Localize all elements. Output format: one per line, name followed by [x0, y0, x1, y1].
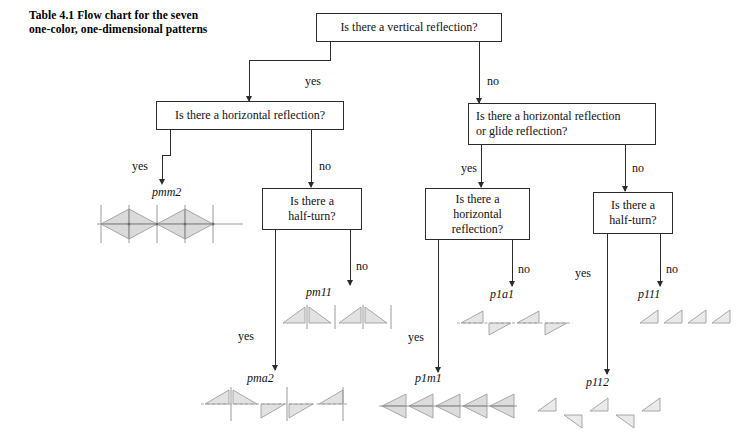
- pattern-figure-p112: [536, 393, 668, 433]
- edge-label-halfturn-right-yes: yes: [575, 266, 591, 281]
- edge-label-left-no: no: [319, 159, 331, 174]
- question-text-line1: Is there a: [290, 194, 334, 208]
- edge-label-halfturn-right-no: no: [666, 262, 678, 277]
- pattern-label-p112: p112: [586, 375, 609, 390]
- table-caption-line1: Table 4.1 Flow chart for the seven: [29, 8, 198, 22]
- pattern-label-pmm2: pmm2: [152, 185, 181, 200]
- table-caption-line2: one-color, one-dimensional patterns: [29, 22, 207, 36]
- question-box-right-half-turn[interactable]: Is there a half-turn?: [593, 192, 673, 234]
- edge-label-root-yes: yes: [305, 74, 321, 89]
- question-text: Is there a vertical reflection?: [340, 20, 477, 35]
- question-text-line2: half-turn?: [609, 213, 656, 227]
- question-text-wrapper: Is there a half-turn?: [288, 194, 335, 224]
- pattern-label-p111: p111: [638, 287, 660, 302]
- edge-left-yes-jog: [162, 155, 171, 156]
- edge-label-right-no: no: [632, 161, 644, 176]
- question-text-wrapper: Is there a horizontal reflection?: [452, 192, 503, 237]
- edge-halfturn-right-no: [660, 234, 661, 286]
- arrowhead-halfturn-left-no: [347, 280, 353, 286]
- question-text-line1: Is there a: [456, 192, 500, 206]
- edge-label-root-no: no: [487, 74, 499, 89]
- edge-halfturn-left-no: [350, 230, 351, 285]
- question-text-line1: Is there a: [611, 198, 655, 212]
- flow-chart-figure: Table 4.1 Flow chart for the seven one-c…: [0, 0, 742, 446]
- question-text-line2: or glide reflection?: [476, 124, 567, 138]
- edge-label-right-yes: yes: [461, 161, 477, 176]
- edge-halfturn-right-yes: [607, 234, 608, 374]
- question-text-line1: Is there a horizontal reflection: [476, 109, 621, 123]
- question-text-line3: reflection?: [452, 222, 503, 236]
- question-text-line2: half-turn?: [288, 209, 335, 223]
- pattern-label-pma2: pma2: [247, 371, 274, 386]
- question-text: Is there a horizontal reflection?: [175, 108, 325, 123]
- edge-midhoriz-yes: [438, 240, 439, 372]
- edge-left-yes-stub: [170, 130, 171, 155]
- question-text-wrapper: Is there a half-turn?: [609, 198, 656, 228]
- pattern-label-p1m1: p1m1: [415, 371, 442, 386]
- edge-right-no: [625, 145, 626, 191]
- question-box-left-half-turn[interactable]: Is there a half-turn?: [262, 188, 362, 230]
- edge-label-midhoriz-no: no: [518, 262, 530, 277]
- edge-root-yes-horizontal: [249, 60, 331, 61]
- question-box-right-horizontal-or-glide[interactable]: Is there a horizontal reflection or glid…: [468, 103, 656, 145]
- edge-label-halfturn-left-yes: yes: [238, 329, 254, 344]
- pattern-label-p1a1: p1a1: [490, 287, 514, 302]
- pattern-figure-pmm2: [95, 200, 245, 248]
- edge-root-yes-drop: [249, 60, 250, 101]
- edge-right-yes: [481, 145, 482, 187]
- edge-label-halfturn-left-no: no: [356, 259, 368, 274]
- question-text-wrapper: Is there a horizontal reflection or glid…: [476, 109, 621, 139]
- edge-halfturn-left-yes: [275, 230, 276, 370]
- edge-root-yes-stub: [330, 42, 331, 60]
- pattern-figure-p111: [638, 305, 734, 329]
- edge-midhoriz-no: [512, 240, 513, 286]
- question-box-left-horizontal-reflection[interactable]: Is there a horizontal reflection?: [156, 101, 344, 130]
- pattern-figure-pma2: [199, 385, 349, 427]
- pattern-label-pm11: pm11: [306, 285, 332, 300]
- question-text-line2: horizontal: [453, 207, 502, 221]
- edge-label-midhoriz-yes: yes: [408, 330, 424, 345]
- pattern-figure-p1m1: [378, 390, 518, 424]
- question-box-vertical-reflection[interactable]: Is there a vertical reflection?: [316, 13, 502, 42]
- question-box-mid-horizontal-reflection[interactable]: Is there a horizontal reflection?: [425, 188, 530, 240]
- edge-label-left-yes: yes: [132, 159, 148, 174]
- edge-root-no: [479, 42, 480, 103]
- pattern-figure-p1a1: [455, 308, 573, 342]
- edge-left-no: [311, 130, 312, 187]
- pattern-figure-pm11: [279, 303, 397, 333]
